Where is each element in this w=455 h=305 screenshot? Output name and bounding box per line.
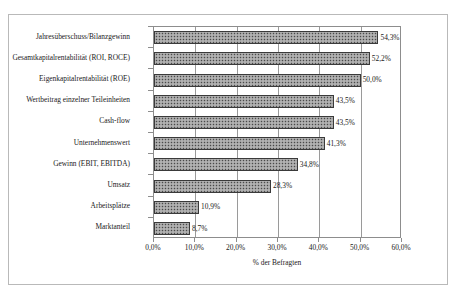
bar-row: 10,9% [154, 201, 400, 214]
value-tick [318, 238, 319, 242]
bar-row: 50,0% [154, 74, 400, 87]
category-tick [148, 111, 153, 112]
value-tick-label: 40,0% [309, 244, 328, 251]
bar-value-label: 10,9% [201, 203, 220, 210]
category-tick [148, 217, 153, 218]
category-tick [148, 47, 153, 48]
bar-value-label: 8,7% [192, 225, 207, 232]
value-tick-label: 60,0% [391, 244, 410, 251]
bar-row: 34,8% [154, 158, 400, 171]
bar-row: 52,2% [154, 52, 400, 65]
value-tick [194, 238, 195, 242]
bar [154, 95, 334, 108]
bar-value-label: 43,5% [336, 119, 355, 126]
value-tick-label: 50,0% [350, 244, 369, 251]
category-tick [148, 196, 153, 197]
value-tick [401, 238, 402, 242]
bar-value-label: 41,3% [327, 140, 346, 147]
bar [154, 74, 361, 87]
category-label: Arbeitsplätze [91, 202, 130, 209]
category-tick [148, 68, 153, 69]
bar-row: 43,5% [154, 116, 400, 129]
bar-row: 41,3% [154, 137, 400, 150]
bar-value-label: 52,2% [372, 55, 391, 62]
value-tick [360, 238, 361, 242]
bar-row: 8,7% [154, 222, 400, 235]
value-tick [277, 238, 278, 242]
bar [154, 158, 298, 171]
bar-value-label: 54,3% [380, 34, 399, 41]
bar [154, 201, 199, 214]
bar [154, 31, 378, 44]
bar [154, 137, 325, 150]
bar [154, 222, 190, 235]
bar [154, 52, 370, 65]
bar-row: 28,3% [154, 180, 400, 193]
bar-row: 54,3% [154, 31, 400, 44]
bar [154, 180, 271, 193]
value-tick [236, 238, 237, 242]
bar-value-label: 28,3% [273, 182, 292, 189]
category-label: Marktanteil [96, 224, 130, 231]
category-label: Umsatz [107, 181, 130, 188]
bar [154, 116, 334, 129]
x-axis-title: % der Befragten [153, 259, 401, 266]
chart-figure: 54,3%52,2%50,0%43,5%43,5%41,3%34,8%28,3%… [0, 0, 455, 305]
category-tick [148, 26, 153, 27]
category-label: Gesamtkapitalrentabilität (ROI, ROCE) [12, 54, 130, 61]
category-label: Cash-flow [99, 118, 130, 125]
category-label: Gewinn (EBIT, EBITDA) [53, 160, 130, 167]
category-label: Eigenkapitalrentabilität (ROE) [39, 75, 130, 82]
category-tick [148, 90, 153, 91]
bar-value-label: 34,8% [300, 161, 319, 168]
chart-outer-frame: 54,3%52,2%50,0%43,5%43,5%41,3%34,8%28,3%… [8, 14, 448, 285]
value-tick-label: 10,0% [185, 244, 204, 251]
category-label: Unternehmenswert [74, 139, 130, 146]
category-label: Wertbeitrag einzelner Teileinheiten [26, 96, 130, 103]
value-tick [153, 238, 154, 242]
bar-value-label: 43,5% [336, 97, 355, 104]
value-tick-label: 0,0% [145, 244, 160, 251]
bar-row: 43,5% [154, 95, 400, 108]
value-tick-label: 30,0% [267, 244, 286, 251]
category-label: Jahresüberschuss/Bilanzgewinn [36, 33, 130, 40]
bar-value-label: 50,0% [363, 76, 382, 83]
category-tick [148, 132, 153, 133]
bar-series: 54,3%52,2%50,0%43,5%43,5%41,3%34,8%28,3%… [154, 27, 400, 237]
category-tick [148, 153, 153, 154]
plot-area: 54,3%52,2%50,0%43,5%43,5%41,3%34,8%28,3%… [153, 26, 401, 238]
value-tick-label: 20,0% [226, 244, 245, 251]
category-tick [148, 174, 153, 175]
